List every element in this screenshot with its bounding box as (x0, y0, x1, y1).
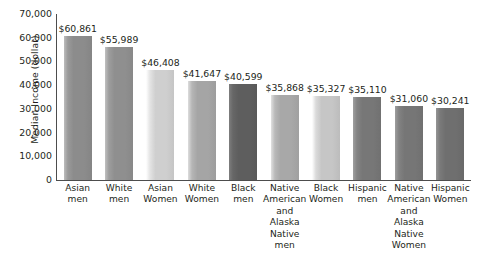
bar-chart: Median Income (dollar) 70,00060,00050,00… (0, 0, 485, 266)
bar (395, 106, 423, 180)
y-axis-tick-label: 50,000 (0, 56, 52, 66)
bar-value-label: $46,408 (141, 58, 179, 68)
bar (229, 84, 257, 180)
y-axis-tick-labels: 70,00060,00050,00040,00030,00020,00010,0… (0, 0, 56, 266)
y-axis-tick-label: 40,000 (0, 80, 52, 90)
x-axis-category-label: HispanicWomen (426, 183, 475, 206)
y-axis-tick-label: 70,000 (0, 9, 52, 19)
bar-value-label: $55,989 (100, 35, 138, 45)
bar-value-label: $35,110 (348, 85, 386, 95)
y-axis-tick-label: 10,000 (0, 151, 52, 161)
bar-value-label: $35,868 (265, 83, 303, 93)
y-axis-tick-label: 60,000 (0, 33, 52, 43)
bar (436, 108, 464, 180)
bar (312, 96, 340, 180)
bar-group: $41,647 (181, 14, 222, 180)
bar-group: $31,060 (388, 14, 429, 180)
bar-value-label: $31,060 (390, 94, 428, 104)
plot-area: $60,861$55,989$46,408$41,647$40,599$35,8… (57, 14, 471, 180)
bar (188, 81, 216, 180)
bar-group: $35,868 (264, 14, 305, 180)
bar-group: $60,861 (57, 14, 98, 180)
y-axis-tick-label: 30,000 (0, 104, 52, 114)
bar-value-label: $41,647 (183, 69, 221, 79)
bar-value-label: $40,599 (224, 72, 262, 82)
bar (353, 97, 381, 180)
bar (64, 36, 92, 180)
bar-value-label: $30,241 (431, 96, 469, 106)
bar (146, 70, 174, 180)
bar-value-label: $60,861 (58, 24, 96, 34)
x-axis-line (56, 180, 471, 181)
bar-value-label: $35,327 (307, 84, 345, 94)
bar-group: $35,327 (305, 14, 346, 180)
bar-group: $40,599 (223, 14, 264, 180)
y-axis-tick-label: 0 (0, 175, 52, 185)
bar (105, 47, 133, 180)
bar (271, 95, 299, 180)
bar-group: $46,408 (140, 14, 181, 180)
x-axis-category-labels: AsianmenWhitemenAsianWomenWhiteWomenBlac… (57, 183, 471, 266)
bar-group: $30,241 (430, 14, 471, 180)
y-axis-tick-label: 20,000 (0, 128, 52, 138)
bar-group: $35,110 (347, 14, 388, 180)
bar-group: $55,989 (98, 14, 139, 180)
